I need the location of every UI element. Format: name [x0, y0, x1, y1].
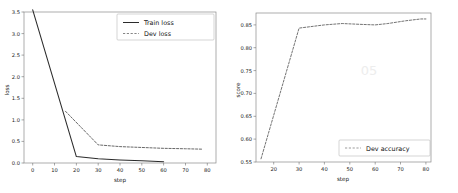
loss-xtick-8: 80 [204, 167, 211, 173]
loss-xtick-3: 30 [95, 167, 102, 173]
accuracy-ytick-6: 0.85 [240, 22, 252, 28]
figure-container: 0.0 0.5 1.0 1.5 2.0 2.5 3.0 3.5 0 [0, 0, 458, 193]
loss-xtick-0: 0 [31, 167, 34, 173]
accuracy-x-axis: 20 30 40 50 60 70 80 [270, 162, 429, 172]
accuracy-ytick-0: 0.55 [240, 159, 252, 165]
accuracy-xtick-5: 70 [397, 166, 404, 172]
accuracy-xtick-1: 30 [296, 166, 303, 172]
loss-xtick-6: 60 [160, 167, 167, 173]
accuracy-xtick-2: 40 [321, 166, 328, 172]
accuracy-ytick-4: 0.75 [240, 68, 252, 74]
loss-chart-panel: 0.0 0.5 1.0 1.5 2.0 2.5 3.0 3.5 0 [0, 0, 229, 193]
accuracy-legend[interactable]: Dev accuracy [339, 140, 430, 156]
accuracy-plot-frame [256, 13, 431, 162]
accuracy-xtick-4: 60 [372, 166, 379, 172]
watermark: 05 [361, 63, 378, 78]
accuracy-ytick-2: 0.65 [240, 113, 252, 119]
loss-ytick-4: 2.0 [12, 74, 20, 80]
accuracy-ytick-5: 0.80 [240, 45, 252, 51]
loss-yaxis-title: loss [4, 85, 10, 96]
loss-chart-svg: 0.0 0.5 1.0 1.5 2.0 2.5 3.0 3.5 0 [0, 0, 229, 193]
accuracy-y-axis: 0.55 0.60 0.65 0.70 0.75 0.80 0.85 [240, 22, 256, 165]
loss-ytick-6: 3.0 [12, 31, 20, 37]
loss-xtick-7: 70 [182, 167, 189, 173]
loss-legend-label-train: Train loss [143, 19, 174, 27]
loss-ytick-7: 3.5 [12, 9, 20, 15]
loss-xaxis-title: step [114, 177, 127, 184]
accuracy-xtick-3: 50 [346, 166, 353, 172]
loss-ytick-5: 2.5 [12, 52, 20, 58]
loss-x-axis: 0 10 20 30 40 50 60 70 80 [31, 163, 211, 173]
accuracy-yaxis-title: score [235, 82, 241, 98]
series-dev-loss [65, 111, 203, 149]
accuracy-ytick-3: 0.70 [240, 90, 252, 96]
loss-xtick-1: 10 [51, 167, 58, 173]
accuracy-legend-label: Dev accuracy [366, 145, 410, 153]
loss-legend[interactable]: Train loss Dev loss [117, 14, 214, 40]
accuracy-chart-panel: 05 0.55 0.60 0.65 0.70 0.75 0.80 0.85 [229, 0, 458, 193]
accuracy-chart-svg: 05 0.55 0.60 0.65 0.70 0.75 0.80 0.85 [229, 0, 458, 193]
loss-ytick-1: 0.5 [12, 138, 20, 144]
loss-legend-label-dev: Dev loss [144, 30, 172, 38]
accuracy-xtick-6: 80 [423, 166, 430, 172]
series-dev-accuracy [261, 19, 426, 159]
accuracy-ytick-1: 0.60 [240, 136, 252, 142]
loss-ytick-3: 1.5 [12, 95, 20, 101]
loss-ytick-0: 0.0 [12, 160, 20, 166]
accuracy-xtick-0: 20 [270, 166, 277, 172]
loss-xtick-4: 40 [117, 167, 124, 173]
loss-xtick-2: 20 [73, 167, 80, 173]
loss-xtick-5: 50 [138, 167, 145, 173]
loss-ytick-2: 1.0 [12, 117, 20, 123]
accuracy-xaxis-title: step [337, 176, 350, 183]
loss-y-axis: 0.0 0.5 1.0 1.5 2.0 2.5 3.0 3.5 [12, 9, 24, 166]
